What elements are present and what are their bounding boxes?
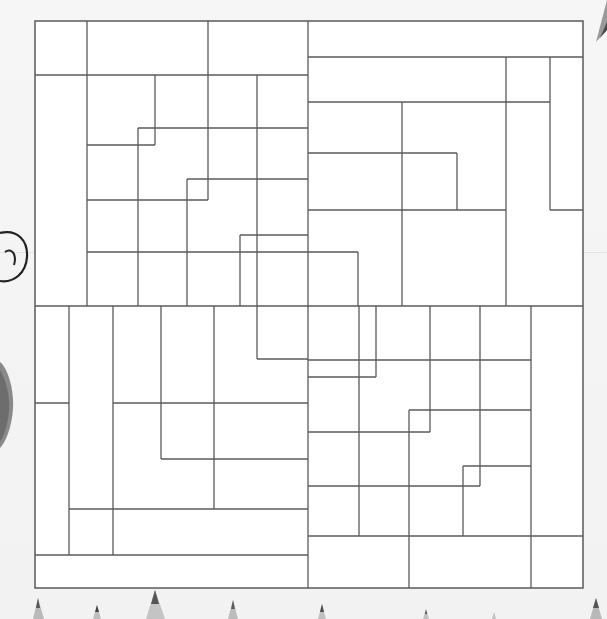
puzzle-grid [0,0,607,619]
coloring-sheet [0,0,607,619]
colored-pencils-icon [0,588,607,619]
